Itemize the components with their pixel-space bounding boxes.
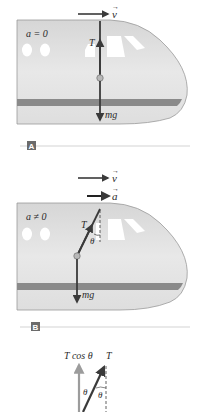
component-tension-label: T xyxy=(106,350,113,361)
panel-tag-a-label: A xyxy=(29,142,35,151)
acceleration-condition-b: a ≠ 0 xyxy=(26,211,47,222)
cabin-window xyxy=(40,228,50,241)
panel-b: v → a → a ≠ 0 T θ mg B xyxy=(17,167,190,332)
cockpit-window xyxy=(96,223,100,240)
vector-arrow-glyph: → xyxy=(112,167,119,175)
fuselage-stripe-b xyxy=(17,283,183,290)
pendulum-in-airplane-figure: v → a = 0 T mg A v → xyxy=(0,0,198,412)
cabin-window xyxy=(22,44,32,57)
cabin-window xyxy=(22,228,32,241)
acceleration-vector-b: a → xyxy=(87,185,119,202)
weight-label-b: mg xyxy=(82,289,94,300)
vector-arrow-glyph: → xyxy=(112,3,119,11)
pendulum-bob-b xyxy=(74,253,80,259)
angle-label-right: θ xyxy=(98,390,103,400)
acceleration-condition-a: a = 0 xyxy=(26,28,48,39)
cabin-window xyxy=(40,44,50,57)
vector-arrow-glyph: → xyxy=(112,185,119,193)
angle-label-left: θ xyxy=(83,387,88,397)
velocity-vector-b: v → xyxy=(78,167,119,184)
vertical-component-label: T cos θ xyxy=(64,350,93,361)
panel-a: v → a = 0 T mg A xyxy=(17,3,190,151)
weight-label-a: mg xyxy=(105,109,117,120)
panel-tag-b-label: B xyxy=(33,323,39,332)
angle-label-b: θ xyxy=(90,236,95,246)
tension-component-diagram: T cos θ T θ θ xyxy=(64,350,113,412)
angle-arc-right xyxy=(96,387,106,388)
pendulum-bob-a xyxy=(97,75,103,81)
velocity-vector-a: v → xyxy=(78,3,119,20)
